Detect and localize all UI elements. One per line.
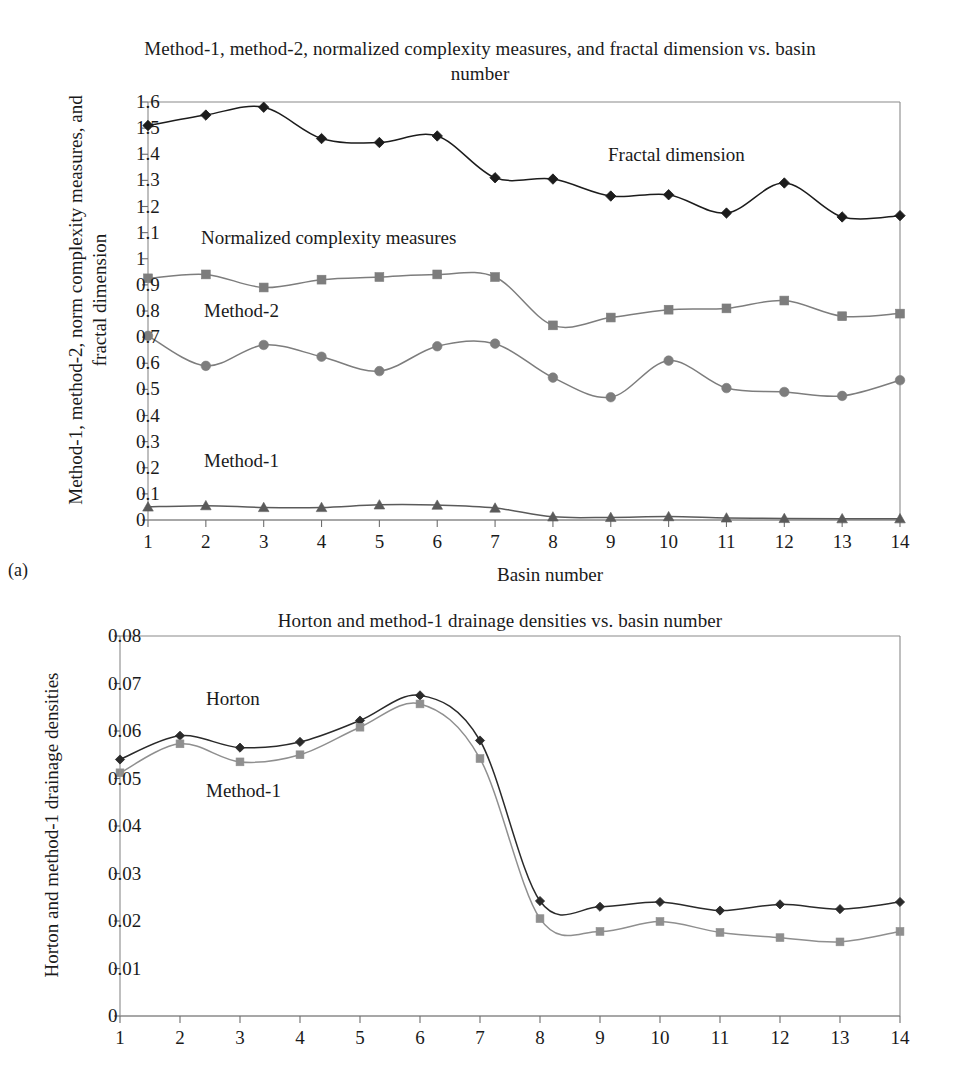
x-tick-label: 13 — [831, 1027, 850, 1049]
x-tick-label: 14 — [891, 1027, 910, 1049]
data-point-marker — [176, 740, 184, 748]
series-fractal-dimension — [143, 102, 905, 222]
data-point-marker — [296, 751, 304, 759]
data-point-marker — [433, 270, 442, 279]
x-tick-label: 3 — [259, 531, 269, 553]
data-point-marker — [895, 210, 905, 220]
data-point-marker — [416, 700, 424, 708]
data-point-marker — [664, 356, 674, 366]
x-tick-label: 11 — [717, 531, 735, 553]
data-point-marker — [896, 309, 905, 318]
x-tick-label: 2 — [201, 531, 211, 553]
x-tick-label: 4 — [295, 1027, 305, 1049]
x-tick-label: 2 — [175, 1027, 185, 1049]
data-point-marker — [836, 938, 844, 946]
data-point-marker — [716, 928, 724, 936]
data-point-marker — [606, 392, 616, 402]
x-tick-label: 12 — [775, 531, 794, 553]
x-tick-label: 5 — [355, 1027, 365, 1049]
subfigure-label-a: (a) — [8, 560, 28, 581]
annotation-normalized-complexity: Normalized complexity measures — [201, 227, 456, 249]
x-tick-label: 8 — [548, 531, 558, 553]
x-tick-label: 10 — [651, 1027, 670, 1049]
data-point-marker — [475, 736, 484, 745]
data-point-marker — [837, 212, 847, 222]
x-tick-label: 7 — [490, 531, 500, 553]
data-point-marker — [775, 900, 784, 909]
data-point-marker — [317, 352, 327, 362]
x-tick-label: 11 — [711, 1027, 729, 1049]
data-point-marker — [895, 375, 905, 385]
x-tick-label: 13 — [833, 531, 852, 553]
data-point-marker — [258, 102, 268, 112]
data-point-marker — [721, 208, 731, 218]
data-point-marker — [837, 391, 847, 401]
chart-a-y-axis-label: Method-1, method-2, norm complexity meas… — [64, 90, 112, 510]
data-point-marker — [201, 361, 211, 371]
data-point-marker — [895, 897, 904, 906]
data-point-marker — [548, 373, 558, 383]
data-point-marker — [432, 131, 442, 141]
annotation-method-2: Method-2 — [204, 300, 279, 322]
data-point-marker — [375, 366, 385, 376]
data-point-marker — [295, 737, 304, 746]
x-tick-label: 6 — [415, 1027, 425, 1049]
data-point-marker — [548, 174, 558, 184]
x-tick-label: 3 — [235, 1027, 245, 1049]
x-tick-label: 12 — [771, 1027, 790, 1049]
data-point-marker — [656, 918, 664, 926]
data-point-marker — [655, 897, 664, 906]
data-point-marker — [175, 731, 184, 740]
data-point-marker — [596, 928, 604, 936]
data-point-marker — [432, 341, 442, 351]
x-tick-label: 9 — [606, 531, 616, 553]
data-point-marker — [490, 173, 500, 183]
x-tick-label: 6 — [432, 531, 442, 553]
data-point-marker — [476, 755, 484, 763]
annotation-method-1: Method-1 — [204, 450, 279, 472]
series-horton — [115, 691, 904, 915]
data-point-marker — [317, 275, 326, 284]
data-point-marker — [536, 915, 544, 923]
x-tick-label: 14 — [891, 531, 910, 553]
data-point-marker — [115, 755, 124, 764]
chart-a-x-axis-label: Basin number — [430, 564, 670, 586]
data-point-marker — [235, 743, 244, 752]
series-method-2 — [143, 331, 905, 402]
data-point-marker — [415, 691, 424, 700]
annotation-method-1: Method-1 — [206, 780, 281, 802]
annotation-horton: Horton — [206, 688, 260, 710]
x-tick-label: 1 — [143, 531, 153, 553]
annotation-fractal-dimension: Fractal dimension — [608, 144, 745, 166]
chart-b-y-axis-label: Horton and method-1 drainage densities — [40, 625, 64, 1025]
data-point-marker — [780, 387, 790, 397]
data-point-marker — [715, 906, 724, 915]
x-tick-label: 10 — [659, 531, 678, 553]
data-point-marker — [664, 305, 673, 314]
data-point-marker — [374, 137, 384, 147]
data-point-marker — [722, 304, 731, 313]
data-point-marker — [549, 321, 558, 330]
data-point-marker — [606, 191, 616, 201]
data-point-marker — [835, 905, 844, 914]
chart-a-title: Method-1, method-2, normalized complexit… — [140, 36, 820, 86]
x-tick-label: 7 — [475, 1027, 485, 1049]
data-point-marker — [595, 902, 604, 911]
figure-a: Method-1, method-2, normalized complexit… — [0, 0, 964, 600]
data-point-marker — [779, 178, 789, 188]
x-tick-label: 8 — [535, 1027, 545, 1049]
data-point-marker — [491, 273, 500, 282]
chart-b-title: Horton and method-1 drainage densities v… — [120, 608, 880, 633]
data-point-marker — [896, 928, 904, 936]
data-point-marker — [201, 270, 210, 279]
chart-a-plot-area: 00.10.20.30.40.50.60.70.80.911.11.21.31.… — [148, 102, 900, 520]
data-point-marker — [722, 383, 732, 393]
figure-b: Horton and method-1 drainage densities v… — [0, 600, 964, 1065]
data-point-marker — [259, 283, 268, 292]
data-point-marker — [780, 296, 789, 305]
x-tick-label: 5 — [375, 531, 385, 553]
x-tick-label: 9 — [595, 1027, 605, 1049]
x-tick-label: 1 — [115, 1027, 125, 1049]
data-point-marker — [490, 339, 500, 349]
data-point-marker — [663, 190, 673, 200]
